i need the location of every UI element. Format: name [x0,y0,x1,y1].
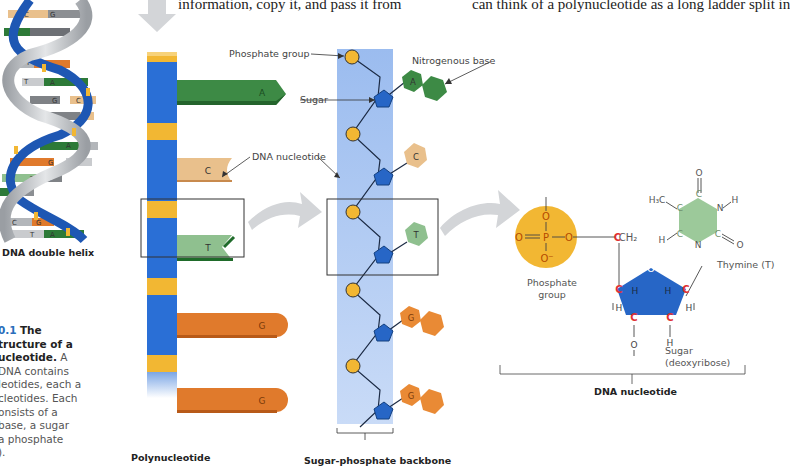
phosphate-group-label: Phosphate group [527,277,577,301]
carbon-atom: C [666,312,673,323]
base-letter: A [259,88,266,98]
methyl-group: H₃C [649,195,666,205]
base-letter: T [412,230,419,240]
dna-nucleotide-callout: DNA nucleotide [252,151,326,162]
sugar-deoxyribose-label: Sugar (deoxyribose) [665,345,730,369]
svg-text:C: C [614,232,621,243]
base-letter: C [205,166,211,176]
down-arrow-icon [138,0,176,32]
h-atom: H [732,195,739,205]
hydroxyl-o: O [630,340,637,350]
backbone-base-A [402,70,447,101]
carbon-atom: C [615,284,622,295]
atom-c: C [677,229,683,239]
atom-p: P [543,232,549,243]
atom-o: O [565,232,573,243]
sugar-label-line2: (deoxyribose) [665,357,730,369]
ch2-label: CH₂ [619,232,638,243]
atom-n: N [695,240,702,250]
sugar-label-line1: Sugar [665,345,730,357]
backbone-base-G1 [400,306,444,336]
base-letter: C [413,152,419,162]
atom-o: O [695,168,702,178]
h-atom: H [659,235,666,245]
atom-o: O [736,240,743,250]
atom-o: O [515,232,523,243]
atom-o: O [542,211,550,222]
nitrogenous-base-callout: Nitrogenous base [412,55,495,66]
phosphate-label-line1: Phosphate [527,277,577,289]
backbone-label: Sugar-phosphate backbone [304,455,451,466]
polynucleotide-base-G1 [177,313,288,338]
backbone-base-G2 [400,384,444,414]
h-atom: H [686,303,693,313]
polynucleotide-base-G2 [177,388,288,413]
curved-arrow-icon [440,190,520,236]
thymine-ring [679,198,717,243]
atom-c: C [677,203,683,213]
dna-nucleotide-label: DNA nucleotide [594,386,677,397]
backbone-bracket [337,428,393,440]
base-letter: G [259,396,266,406]
phosphate-group-callout: Phosphate group [229,48,310,59]
atom-c: C [696,189,702,199]
atom-o-minus: O⁻ [540,253,553,264]
deoxyribose-ring [617,268,686,315]
ring-oxygen: O [647,263,655,274]
polynucleotide-label: Polynucleotide [131,452,210,463]
base-letter: T [204,243,211,253]
polynucleotide-strand [147,52,177,398]
sugar-callout: Sugar [300,94,328,105]
phosphate-label-line2: group [527,289,577,301]
h-atom: H [665,286,672,296]
h-atom: H [616,303,623,313]
h-atom: H [632,286,639,296]
polynucleotide-base-A [177,80,286,105]
atom-c: C [715,229,721,239]
thymine-label: Thymine (T) [717,259,774,270]
base-letter: A [410,77,416,87]
base-letter: G [408,313,415,323]
curved-arrow-icon [248,192,322,230]
carbon-atom: C [630,312,637,323]
base-letter: G [408,391,415,401]
carbon-atom: C [682,284,689,295]
atom-n: N [717,203,724,213]
base-letter: G [259,321,266,331]
